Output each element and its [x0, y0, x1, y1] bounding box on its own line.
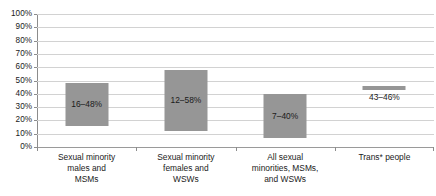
y-tick-label: 70% — [16, 50, 32, 58]
bar-value-label: 16–48% — [71, 100, 102, 108]
y-tick-label: 20% — [16, 116, 32, 124]
y-tick-label: 60% — [16, 63, 32, 71]
x-axis-tick-mark — [37, 147, 38, 151]
x-axis-tick-mark — [433, 147, 434, 151]
y-tick-label: 50% — [16, 76, 32, 84]
x-axis-category-labels: Sexual minoritymales andMSMs Sexual mino… — [37, 152, 434, 196]
category-label-line: and WSWs — [236, 174, 335, 185]
x-axis-tick-mark — [236, 147, 237, 151]
y-tick-label: 10% — [16, 130, 32, 138]
bar-value-label: 12–58% — [171, 96, 202, 104]
category-label: Sexual minoritymales andMSMs — [37, 152, 136, 185]
plot-area: 16–48% 12–58% 7–40% 43–46% — [37, 14, 434, 147]
bars-layer: 16–48% 12–58% 7–40% 43–46% — [37, 14, 434, 147]
category-label: All sexualminorities, MSMs,and WSWs — [236, 152, 335, 185]
range-bar — [363, 86, 406, 90]
x-axis-tick-mark — [136, 147, 137, 151]
category-label-line: MSMs — [37, 174, 136, 185]
bar-group: 7–40% — [236, 14, 335, 147]
range-bar-chart: 100% 90% 80% 70% 60% 50% 40% 30% 20% 10%… — [0, 0, 436, 196]
category-label: Sexual minorityfemales andWSWs — [136, 152, 235, 185]
bar-value-label: 7–40% — [272, 112, 298, 120]
category-label-line: males and — [37, 163, 136, 174]
category-label-line: WSWs — [136, 174, 235, 185]
x-axis-tick-mark — [335, 147, 336, 151]
category-label-line: Sexual minority — [136, 152, 235, 163]
category-label-line: Sexual minority — [37, 152, 136, 163]
bar-group: 16–48% — [37, 14, 136, 147]
bar-group: 12–58% — [136, 14, 235, 147]
category-label-line: All sexual — [236, 152, 335, 163]
y-axis-tick-labels: 100% 90% 80% 70% 60% 50% 40% 30% 20% 10%… — [0, 0, 36, 196]
bar-group: 43–46% — [335, 14, 434, 147]
y-tick-label: 80% — [16, 36, 32, 44]
category-label: Trans* people — [335, 152, 434, 163]
category-label-line: females and — [136, 163, 235, 174]
y-tick-label: 0% — [20, 143, 32, 151]
category-label-line: Trans* people — [335, 152, 434, 163]
category-label-line: minorities, MSMs, — [236, 163, 335, 174]
bar-value-label: 43–46% — [369, 93, 400, 101]
y-tick-label: 90% — [16, 23, 32, 31]
y-tick-label: 40% — [16, 90, 32, 98]
y-tick-label: 30% — [16, 103, 32, 111]
y-tick-label: 100% — [11, 10, 32, 18]
